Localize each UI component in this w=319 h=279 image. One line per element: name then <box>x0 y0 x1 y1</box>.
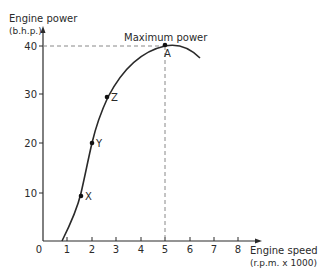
point-y-marker <box>90 141 95 146</box>
engine-power-chart: X Y Z A Maximum power Engine power (b.h.… <box>0 0 319 279</box>
y-tick-label-40: 40 <box>24 41 37 52</box>
x-axis-title-line2: (r.p.m. x 1000) <box>250 258 317 268</box>
x-tick-label-6: 6 <box>187 244 193 255</box>
y-tick-label-20: 20 <box>24 138 37 149</box>
x-tick-label-2: 2 <box>89 244 95 255</box>
x-tick-label-3: 3 <box>113 244 119 255</box>
y-tick-label-10: 10 <box>24 188 37 199</box>
point-y-label: Y <box>95 138 103 149</box>
y-axis-title-line1: Engine power <box>9 13 78 24</box>
y-axis-title-line2: (b.h.p.) <box>9 26 42 36</box>
x-tick-label-8: 8 <box>235 244 241 255</box>
x-tick-label-5: 5 <box>162 244 168 255</box>
max-power-annotation: Maximum power <box>124 32 208 43</box>
point-x-marker <box>79 194 84 199</box>
x-tick-label-1: 1 <box>64 244 70 255</box>
point-x-label: X <box>85 191 92 202</box>
point-a-label: A <box>164 48 171 59</box>
point-z-marker <box>105 95 110 100</box>
point-a-marker <box>163 43 168 48</box>
point-z-label: Z <box>111 92 118 103</box>
x-axis-title-line1: Engine speed <box>250 245 318 256</box>
x-tick-label-4: 4 <box>138 244 144 255</box>
origin-label: 0 <box>36 244 42 255</box>
x-tick-label-7: 7 <box>211 244 217 255</box>
y-tick-label-30: 30 <box>24 89 37 100</box>
power-curve <box>62 45 200 241</box>
x-axis-arrow-icon <box>255 239 262 244</box>
